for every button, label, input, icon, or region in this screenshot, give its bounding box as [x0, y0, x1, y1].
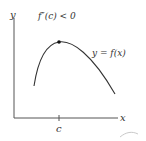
y-axis-label: y [9, 9, 16, 20]
concavity-diagram: y x c f″(c) < 0 y = f(x) [0, 0, 146, 141]
critical-point [57, 40, 61, 44]
tick-label-c: c [56, 123, 62, 134]
x-axis-label: x [120, 112, 126, 123]
curve-label: y = f(x) [91, 48, 126, 58]
condition-label: f″(c) < 0 [37, 11, 76, 21]
corner-mark [120, 132, 138, 137]
